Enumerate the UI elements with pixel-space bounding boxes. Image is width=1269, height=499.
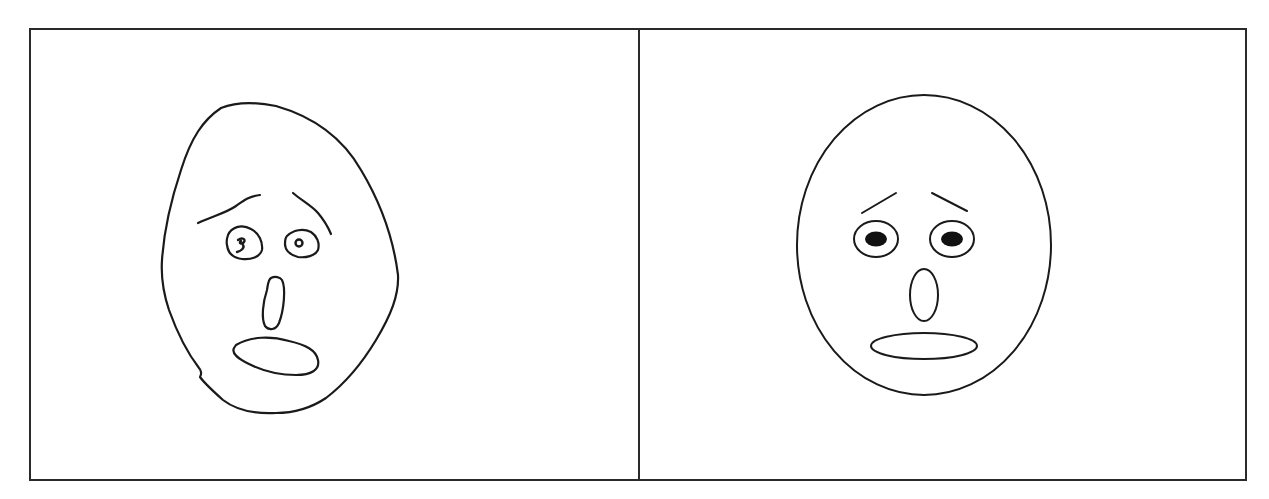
left-eyebrow: [198, 195, 260, 223]
left-eyebrow: [862, 193, 896, 213]
head-outline: [162, 103, 398, 413]
right-eyebrow: [293, 193, 331, 234]
schematic-face-drawing: [640, 30, 1247, 479]
hand-drawn-face-drawing: [31, 30, 638, 479]
head-outline: [797, 95, 1051, 395]
right-pupil: [941, 232, 963, 247]
figure-frame: Hand-drawn face: [29, 28, 1247, 481]
right-eyebrow: [932, 193, 967, 211]
mouth: [233, 338, 318, 375]
left-pupil: [865, 232, 887, 247]
left-pupil: [237, 239, 245, 252]
panel-schematic-face: Schematic face: [640, 30, 1245, 479]
panel-hand-drawn-face: Hand-drawn face: [31, 30, 640, 479]
nose: [910, 269, 938, 321]
mouth: [871, 333, 977, 359]
nose: [263, 277, 284, 329]
right-pupil: [296, 240, 303, 247]
